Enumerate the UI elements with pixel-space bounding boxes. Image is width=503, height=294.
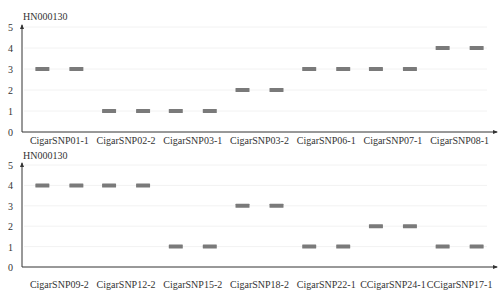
chart-bottom-svg: 012345HN000130CigarSNP09-2CigarSNP12-2Ci… <box>0 147 503 294</box>
y-tick-label: 5 <box>8 160 13 171</box>
x-tick-label: CigarSNP18-2 <box>230 279 289 290</box>
allele-marker <box>336 67 350 71</box>
allele-marker <box>270 204 284 208</box>
allele-marker <box>236 204 250 208</box>
y-axis-arrow-icon <box>20 162 24 167</box>
y-tick-label: 1 <box>8 242 13 253</box>
x-tick-label: CigarSNP01-1 <box>30 135 89 146</box>
allele-marker <box>302 245 316 249</box>
allele-marker <box>270 88 284 92</box>
x-tick-label: CCigarSNP24-1 <box>360 279 426 290</box>
allele-marker <box>102 109 116 113</box>
x-tick-label: CCigarSNP17-1 <box>427 279 493 290</box>
allele-marker <box>203 245 217 249</box>
x-tick-label: CigarSNP06-1 <box>297 135 356 146</box>
x-tick-label: CigarSNP12-2 <box>97 279 156 290</box>
chart-top-svg: 012345HN000130CigarSNP01-1CigarSNP02-2Ci… <box>0 0 503 147</box>
chart-title: HN000130 <box>23 11 67 22</box>
allele-marker <box>203 109 217 113</box>
y-tick-label: 0 <box>8 262 13 273</box>
allele-marker <box>336 245 350 249</box>
y-axis-arrow-icon <box>20 24 24 29</box>
allele-marker <box>470 46 484 50</box>
allele-marker <box>403 224 417 228</box>
x-tick-label: CigarSNP09-2 <box>30 279 89 290</box>
y-tick-label: 1 <box>8 106 13 117</box>
allele-marker <box>369 67 383 71</box>
y-tick-label: 4 <box>8 180 13 191</box>
x-tick-label: CigarSNP02-2 <box>97 135 156 146</box>
x-tick-label: CigarSNP03-2 <box>230 135 289 146</box>
allele-marker <box>403 67 417 71</box>
chart-title: HN000130 <box>23 150 67 161</box>
allele-marker <box>236 88 250 92</box>
allele-marker <box>369 224 383 228</box>
allele-marker <box>436 245 450 249</box>
allele-marker <box>169 109 183 113</box>
y-tick-label: 2 <box>8 85 13 96</box>
y-tick-label: 5 <box>8 22 13 33</box>
x-tick-label: CigarSNP22-1 <box>297 279 356 290</box>
y-tick-label: 2 <box>8 221 13 232</box>
allele-marker <box>69 67 83 71</box>
allele-marker <box>69 183 83 187</box>
allele-marker <box>302 67 316 71</box>
allele-marker <box>136 109 150 113</box>
x-axis-arrow-icon <box>493 265 498 269</box>
allele-marker <box>136 183 150 187</box>
allele-marker <box>470 245 484 249</box>
allele-marker <box>169 245 183 249</box>
x-axis-arrow-icon <box>493 130 498 134</box>
x-tick-label: CigarSNP07-1 <box>363 135 422 146</box>
chart-bottom: 012345HN000130CigarSNP09-2CigarSNP12-2Ci… <box>0 147 503 294</box>
y-tick-label: 0 <box>8 127 13 138</box>
y-tick-label: 3 <box>8 64 13 75</box>
allele-marker <box>35 67 49 71</box>
y-tick-label: 3 <box>8 201 13 212</box>
x-tick-label: CigarSNP08-1 <box>430 135 489 146</box>
x-tick-label: CigarSNP03-1 <box>163 135 222 146</box>
allele-marker <box>35 183 49 187</box>
y-tick-label: 4 <box>8 43 13 54</box>
allele-marker <box>102 183 116 187</box>
chart-top: 012345HN000130CigarSNP01-1CigarSNP02-2Ci… <box>0 0 503 147</box>
x-tick-label: CigarSNP15-2 <box>163 279 222 290</box>
allele-marker <box>436 46 450 50</box>
